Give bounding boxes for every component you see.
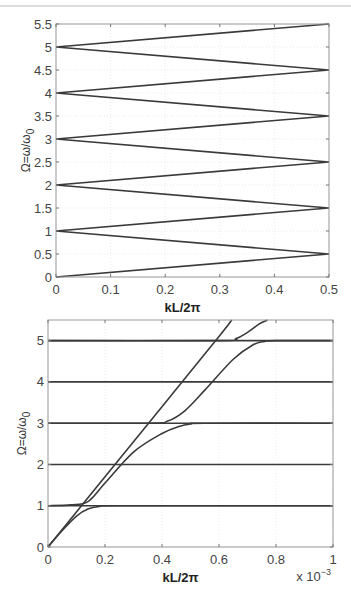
y-tick-label: 5 — [37, 333, 44, 348]
x-tick-label: 0.1 — [102, 282, 120, 297]
series-band-8 — [56, 93, 329, 116]
series-band-9 — [56, 70, 329, 93]
series-band-2 — [56, 231, 329, 254]
series-band-6 — [56, 139, 329, 162]
series-branch-5-up — [48, 320, 267, 341]
y-tick-label: 1 — [45, 224, 52, 239]
series-light-line — [48, 320, 232, 547]
y-tick-label: 2 — [45, 178, 52, 193]
y-tick-label: 2 — [37, 457, 44, 472]
x-tick-label: 0.4 — [153, 552, 171, 567]
x-multiplier: x 10−3 — [296, 567, 331, 584]
series-branch-0-1 — [48, 506, 333, 547]
x-tick-label: 1 — [329, 552, 336, 567]
series-band-4 — [56, 185, 329, 208]
y-tick-label: 1 — [37, 498, 44, 513]
series-band-3 — [56, 208, 329, 231]
y-tick-label: 3 — [37, 416, 44, 431]
series-band-1 — [56, 254, 329, 277]
y-axis-label: Ω=ω/ω0 — [15, 411, 32, 455]
series-band-7 — [56, 116, 329, 139]
x-tick-label: 0.8 — [267, 552, 285, 567]
y-tick-label: 0 — [45, 270, 52, 285]
x-tick-label: 0.3 — [211, 282, 229, 297]
y-tick-label: 0.5 — [34, 247, 52, 262]
x-tick-label: 0 — [52, 282, 59, 297]
y-tick-label: 2.5 — [34, 155, 52, 170]
y-tick-label: 5.5 — [34, 17, 52, 32]
x-tick-label: 0.2 — [96, 552, 114, 567]
series-band-10 — [56, 47, 329, 70]
y-tick-label: 3 — [45, 132, 52, 147]
x-axis-label: kL/2π — [165, 300, 201, 315]
x-tick-label: 0.5 — [320, 282, 338, 297]
y-tick-label: 0 — [37, 540, 44, 555]
axes-box — [48, 320, 333, 547]
x-tick-label: 0 — [44, 552, 51, 567]
y-tick-label: 3.5 — [34, 109, 52, 124]
x-tick-label: 0.4 — [265, 282, 283, 297]
x-axis-label: kL/2π — [163, 570, 199, 585]
y-tick-label: 4.5 — [34, 63, 52, 78]
y-tick-label: 5 — [45, 40, 52, 55]
figure: 00.10.20.30.40.500.511.522.533.544.555.5… — [0, 0, 351, 600]
bottom-plot: 00.20.40.60.81012345kL/2πΩ=ω/ω0x 10−3 — [15, 320, 337, 585]
y-tick-label: 1.5 — [34, 201, 52, 216]
y-tick-label: 4 — [37, 374, 44, 389]
series-band-5 — [56, 162, 329, 185]
x-tick-label: 0.2 — [156, 282, 174, 297]
y-tick-label: 4 — [45, 86, 52, 101]
top-plot: 00.10.20.30.40.500.511.522.533.544.555.5… — [19, 17, 338, 316]
series-band-11 — [56, 24, 329, 47]
x-tick-label: 0.6 — [210, 552, 228, 567]
